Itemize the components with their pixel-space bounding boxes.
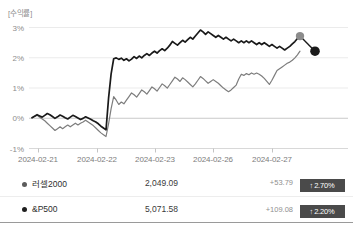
y-axis-tick-label: 3% bbox=[12, 24, 24, 33]
status-badge: ↑2.70% bbox=[300, 179, 345, 192]
legend-table: 러셀20002,049.09+53.79↑2.70%&P5005,071.58+… bbox=[0, 170, 353, 223]
x-axis-tick-label: 2024-02-26 bbox=[193, 155, 234, 164]
status-badge: ↑2.20% bbox=[300, 205, 345, 218]
x-axis-tick-label: 2024-02-23 bbox=[135, 155, 176, 164]
series-lines bbox=[32, 30, 300, 136]
y-axis-tick-label: 2% bbox=[12, 54, 24, 63]
x-axis-tick-labels: 2024-02-212024-02-222024-02-232024-02-26… bbox=[18, 155, 293, 164]
legend-dot-icon bbox=[22, 207, 27, 212]
legend-body: 러셀20002,049.09+53.79↑2.70%&P5005,071.58+… bbox=[0, 170, 353, 222]
chart-panel: [수익률] 3%2%1%0%-1% 2024-02-212024-02-2220… bbox=[0, 0, 353, 170]
line-chart-plot: 3%2%1%0%-1% 2024-02-212024-02-222024-02-… bbox=[0, 0, 353, 170]
legend-badge-cell: ↑2.70% bbox=[299, 170, 353, 196]
legend-index-value: 5,071.58 bbox=[144, 196, 236, 222]
legend-series-label: &P500 bbox=[32, 204, 58, 214]
legend-badge-cell: ↑2.20% bbox=[299, 196, 353, 222]
endpoint-marker-russell2000 bbox=[296, 32, 304, 40]
arrow-up-icon: ↑ bbox=[310, 207, 314, 216]
legend-series-name-cell: &P500 bbox=[0, 196, 144, 222]
legend-dot-icon bbox=[22, 182, 27, 187]
arrow-up-icon: ↑ bbox=[310, 181, 314, 190]
y-axis-tick-label: -1% bbox=[10, 145, 24, 154]
y-axis-tick-labels: 3%2%1%0%-1% bbox=[10, 24, 24, 154]
legend-change-value: +53.79 bbox=[235, 170, 299, 196]
legend-change-value: +109.08 bbox=[235, 196, 299, 222]
x-axis-tick-label: 2024-02-27 bbox=[252, 155, 293, 164]
endpoint-marker-sp500 bbox=[310, 46, 320, 56]
y-axis-tick-label: 0% bbox=[12, 114, 24, 123]
x-axis bbox=[29, 149, 348, 153]
gridlines bbox=[29, 28, 348, 149]
legend-series-name-cell: 러셀2000 bbox=[0, 170, 144, 196]
legend-row[interactable]: &P5005,071.58+109.08↑2.20% bbox=[0, 196, 353, 222]
series-line-russell2000 bbox=[32, 30, 300, 130]
x-axis-tick-label: 2024-02-21 bbox=[18, 155, 59, 164]
legend-row[interactable]: 러셀20002,049.09+53.79↑2.70% bbox=[0, 170, 353, 196]
badge-percent-label: 2.20% bbox=[314, 207, 334, 216]
legend-series-label: 러셀2000 bbox=[32, 179, 67, 189]
badge-percent-label: 2.70% bbox=[314, 181, 334, 190]
x-axis-tick-label: 2024-02-22 bbox=[77, 155, 118, 164]
series-line-sp500 bbox=[32, 51, 300, 136]
legend-index-value: 2,049.09 bbox=[144, 170, 236, 196]
y-axis-tick-label: 1% bbox=[12, 84, 24, 93]
stock-performance-chart-widget: [수익률] 3%2%1%0%-1% 2024-02-212024-02-2220… bbox=[0, 0, 353, 233]
